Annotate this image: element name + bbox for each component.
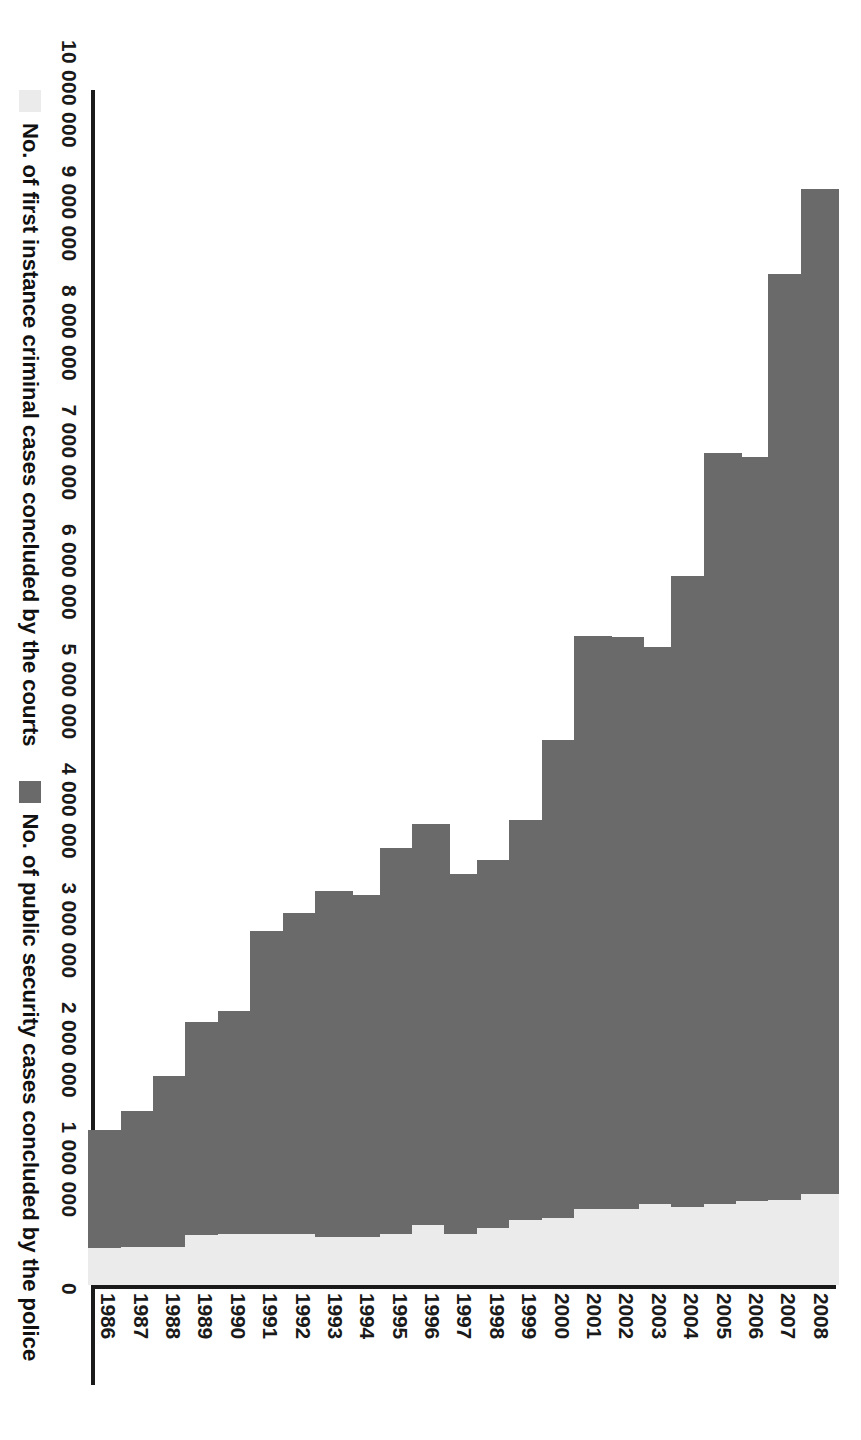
category-tick-label-2000: 2000 xyxy=(550,1293,574,1339)
value-tick-label: 0 xyxy=(57,1283,81,1295)
category-tick-label-2002: 2002 xyxy=(614,1293,638,1339)
legend-entry-police: No. of public security cases concluded b… xyxy=(17,781,43,1362)
category-tick-label-1992: 1992 xyxy=(291,1293,315,1339)
value-tick-label: 5 000 000 xyxy=(57,643,81,739)
category-tick-label-1995: 1995 xyxy=(388,1293,412,1339)
category-tick-label-1988: 1988 xyxy=(161,1293,185,1339)
category-tick-label-1991: 1991 xyxy=(258,1293,282,1339)
category-tick-label-2004: 2004 xyxy=(679,1293,703,1339)
value-tick-label: 8 000 000 xyxy=(57,285,81,381)
legend-swatch-courts-icon xyxy=(19,90,41,112)
legend-label: No. of first instance criminal cases con… xyxy=(17,123,43,747)
legend-swatch-police-icon xyxy=(19,781,41,803)
category-axis-line xyxy=(91,1285,836,1289)
bar-segment-police xyxy=(801,189,839,1194)
category-tick-label-2006: 2006 xyxy=(744,1293,768,1339)
category-tick-label-2005: 2005 xyxy=(712,1293,736,1339)
category-tick-label-1996: 1996 xyxy=(420,1293,444,1339)
plot-area: 1986198719881989199019911992199319941995… xyxy=(91,90,836,1385)
category-tick-label-2007: 2007 xyxy=(776,1293,800,1339)
bar-segment-courts xyxy=(801,1194,839,1285)
value-tick-label: 1 000 000 xyxy=(57,1121,81,1217)
legend-entry-courts: No. of first instance criminal cases con… xyxy=(17,90,43,747)
value-tick-label: 6 000 000 xyxy=(57,524,81,620)
category-tick-label-2008: 2008 xyxy=(809,1293,833,1339)
category-tick-label-1998: 1998 xyxy=(485,1293,509,1339)
category-tick-label-1990: 1990 xyxy=(226,1293,250,1339)
legend-label: No. of public security cases concluded b… xyxy=(17,814,43,1362)
chart-figure: 1986198719881989199019911992199319941995… xyxy=(0,0,861,1440)
value-tick-label: 4 000 000 xyxy=(57,763,81,859)
category-tick-label-1986: 1986 xyxy=(96,1293,120,1339)
category-tick-label-1997: 1997 xyxy=(453,1293,477,1339)
value-tick-label: 3 000 000 xyxy=(57,882,81,978)
value-tick-label: 2 000 000 xyxy=(57,1002,81,1098)
category-tick-label-2003: 2003 xyxy=(647,1293,671,1339)
category-tick-label-1989: 1989 xyxy=(193,1293,217,1339)
category-tick-label-2001: 2001 xyxy=(582,1293,606,1339)
bar-row xyxy=(801,90,839,1285)
category-tick-label-1994: 1994 xyxy=(355,1293,379,1339)
chart-legend: No. of first instance criminal cases con… xyxy=(17,90,43,1361)
category-tick-label-1999: 1999 xyxy=(517,1293,541,1339)
category-tick-label-1993: 1993 xyxy=(323,1293,347,1339)
bar-stack-2008 xyxy=(801,189,839,1285)
category-tick-label-1987: 1987 xyxy=(129,1293,153,1339)
value-tick-label: 9 000 000 xyxy=(57,165,81,261)
value-tick-label: 10 000 000 xyxy=(57,40,81,148)
value-tick-label: 7 000 000 xyxy=(57,404,81,500)
